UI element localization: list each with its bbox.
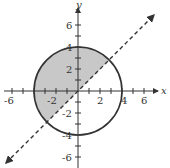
x-tick-label: 2 [97, 95, 103, 106]
x-tick-label: -6 [4, 95, 14, 106]
y-tick-label: -6 [62, 152, 72, 163]
y-tick-label: -2 [62, 108, 72, 119]
y-tick-label: 2 [66, 64, 72, 75]
y-axis-label: y [75, 0, 82, 10]
x-tick-label: -2 [47, 95, 57, 106]
x-tick-label: 6 [141, 95, 147, 106]
y-tick-label: 6 [66, 20, 72, 31]
y-tick-label: -4 [62, 130, 72, 141]
x-axis-label: x [161, 85, 167, 96]
coordinate-plane: -6 -2 2 4 6 6 4 2 -2 -4 -6 x y [0, 0, 170, 168]
y-tick-label: 4 [66, 42, 72, 53]
x-tick-label: 4 [121, 95, 127, 106]
graph-figure: -6 -2 2 4 6 6 4 2 -2 -4 -6 x y [0, 0, 170, 168]
